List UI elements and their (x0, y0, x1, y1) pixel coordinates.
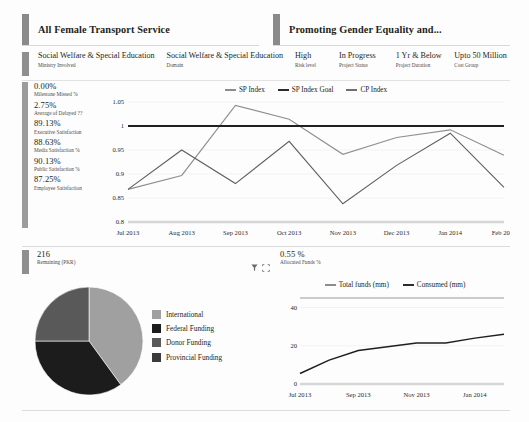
kpi-value: 89.13% (34, 119, 82, 128)
dashboard-page: All Female Transport Service Promoting G… (0, 0, 529, 422)
line-swatch-icon (403, 284, 414, 286)
meta-value: Social Welfare & Special Education (167, 52, 287, 61)
legend-label: Consumed (mm) (417, 281, 466, 289)
legend-item-total-funds[interactable]: Total funds (mm) (325, 281, 389, 289)
kpi-value: 88.63% (34, 138, 82, 147)
line-swatch-icon (225, 89, 236, 91)
meta-label: Project Duration (396, 62, 445, 68)
kpi-label: Milestone Missed % (34, 91, 82, 98)
legend-label: SP Index (239, 86, 265, 94)
kpi-allocated-funds: 0.55 % Allocated Funds % (280, 250, 321, 266)
svg-text:Oct 2013: Oct 2013 (277, 229, 302, 236)
svg-text:Nov 2013: Nov 2013 (330, 229, 357, 236)
page-title-left: All Female Transport Service (29, 14, 170, 45)
meta-cost-group: Upto 50 Million Cost Group (445, 52, 510, 68)
legend-item-donor-funding[interactable]: Donor Funding (152, 338, 222, 347)
pie-chart-legend: International Federal Funding Donor Fund… (152, 310, 222, 362)
color-swatch-icon (152, 338, 161, 347)
legend-label: CP Index (360, 86, 387, 94)
kpi-public-satisfaction: 90.13% Public Satisfaction % (34, 157, 82, 173)
svg-text:Sep 2013: Sep 2013 (223, 229, 248, 236)
accent-bar-icon (22, 14, 29, 45)
svg-text:0.9: 0.9 (116, 170, 125, 177)
funding-meta-strip: 216 Remaining (PKR) 0.55 % Allocated Fun… (22, 250, 510, 276)
legend-item-sp-index[interactable]: SP Index (225, 86, 265, 94)
meta-risk-level: High Risk level (286, 52, 330, 68)
legend-item-international[interactable]: International (152, 310, 222, 319)
project-meta-strip: Social Welfare & Special Education Minis… (22, 52, 510, 81)
funding-sources-pie-chart: International Federal Funding Donor Fund… (30, 282, 280, 402)
kpi-value: 90.13% (34, 157, 82, 166)
svg-text:1.05: 1.05 (112, 98, 124, 105)
line-swatch-icon (346, 89, 357, 91)
page-footer-divider (22, 410, 510, 411)
accent-bar-icon (273, 14, 280, 45)
funds-chart-svg: 02040Jul 2013Sep 2013Nov 2013Jan 2014 (280, 292, 510, 402)
svg-text:0.85: 0.85 (112, 194, 124, 201)
pie-slice[interactable] (35, 287, 89, 341)
panel-divider (22, 246, 510, 247)
legend-item-federal-funding[interactable]: Federal Funding (152, 324, 222, 333)
kpi-remaining: 216 Remaining (PKR) (22, 250, 75, 274)
kpi-value: 87.25% (34, 175, 82, 184)
svg-text:1: 1 (121, 122, 124, 129)
svg-text:0.8: 0.8 (116, 218, 125, 225)
svg-text:Jan 2014: Jan 2014 (438, 229, 462, 236)
kpi-column: 0.00% Milestone Missed % 2.75% Average o… (22, 82, 100, 228)
kpi-executive-satisfaction: 89.13% Executive Satisfaction (34, 119, 82, 135)
kpi-employee-satisfaction: 87.25% Employee Satisfaction (34, 175, 82, 191)
kpi-label: Employee Satisfaction (34, 185, 82, 192)
meta-label: Cost Group (454, 62, 510, 68)
accent-bar-icon (22, 250, 29, 274)
svg-text:0.95: 0.95 (112, 146, 124, 153)
svg-text:Jan 2014: Jan 2014 (463, 391, 487, 398)
accent-bar-icon (22, 52, 29, 76)
meta-domain: Social Welfare & Special Education Domai… (158, 52, 287, 68)
funds-chart-legend: Total funds (mm) Consumed (mm) (280, 278, 510, 292)
meta-value: 1 Yr & Below (396, 52, 445, 61)
color-swatch-icon (152, 324, 161, 333)
svg-text:Feb 2014: Feb 2014 (492, 229, 510, 236)
funds-trend-chart: Total funds (mm) Consumed (mm) 02040Jul … (280, 278, 510, 406)
meta-value: Social Welfare & Special Education (38, 52, 158, 61)
svg-text:Aug 2013: Aug 2013 (169, 229, 196, 236)
svg-text:Dec 2013: Dec 2013 (384, 229, 410, 236)
legend-item-provincial-funding[interactable]: Provincial Funding (152, 353, 222, 362)
legend-item-sp-index-goal[interactable]: SP Index Goal (278, 86, 334, 94)
color-swatch-icon (152, 353, 161, 362)
meta-project-status: In Progress Project Status (330, 52, 387, 68)
index-chart-svg: 0.80.850.90.9511.05Jul 2013Aug 2013Sep 2… (102, 98, 510, 240)
kpi-media-satisfaction: 88.63% Media Satisfaction % (34, 138, 82, 154)
kpi-value: 2.75% (34, 101, 82, 110)
project-title-card-right[interactable]: Promoting Gender Equality and... (273, 14, 510, 46)
kpi-average-delayed: 2.75% Average of Delayed ?? (34, 101, 82, 117)
meta-label: Ministry Involved (38, 62, 158, 68)
meta-value: Upto 50 Million (454, 52, 510, 61)
meta-ministry: Social Welfare & Special Education Minis… (29, 52, 158, 68)
meta-label: Domain (167, 62, 287, 68)
index-trend-chart: SP Index SP Index Goal CP Index 0.80.850… (102, 82, 510, 240)
svg-text:20: 20 (290, 342, 297, 349)
legend-item-cp-index[interactable]: CP Index (346, 86, 387, 94)
svg-text:Jul 2013: Jul 2013 (117, 229, 140, 236)
top-panel: 0.00% Milestone Missed % 2.75% Average o… (22, 82, 510, 240)
svg-text:Jul 2013: Jul 2013 (289, 391, 312, 398)
svg-text:Nov 2013: Nov 2013 (403, 391, 430, 398)
bottom-panel: International Federal Funding Donor Fund… (22, 278, 510, 406)
kpi-value: 0.00% (34, 82, 82, 91)
meta-label: Risk level (295, 62, 330, 68)
line-swatch-icon (325, 284, 336, 286)
legend-label: Provincial Funding (166, 353, 222, 362)
filter-funnel-icon[interactable] (251, 264, 258, 272)
kpi-label: Remaining (PKR) (37, 259, 75, 266)
project-title-card-left[interactable]: All Female Transport Service (22, 14, 259, 46)
svg-text:Sep 2013: Sep 2013 (346, 391, 371, 398)
svg-text:0: 0 (294, 380, 298, 387)
legend-label: Federal Funding (166, 324, 214, 333)
legend-label: Total funds (mm) (339, 281, 389, 289)
line-swatch-icon (278, 89, 289, 91)
kpi-label: Public Satisfaction % (34, 166, 82, 173)
focus-expand-icon[interactable] (262, 264, 270, 272)
kpi-milestone-missed: 0.00% Milestone Missed % (34, 82, 82, 98)
legend-item-consumed[interactable]: Consumed (mm) (403, 281, 466, 289)
